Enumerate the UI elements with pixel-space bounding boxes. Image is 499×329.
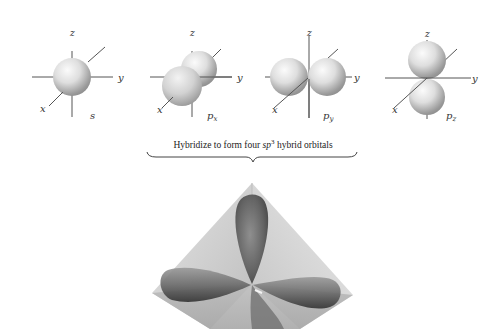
orbital-label-pz: pz bbox=[446, 110, 456, 123]
s-sphere bbox=[53, 58, 91, 96]
x-label: x bbox=[157, 104, 163, 115]
x-axis bbox=[49, 92, 63, 106]
x-axis-back bbox=[212, 49, 221, 58]
x-label: x bbox=[40, 103, 46, 114]
py-left-lobe bbox=[270, 58, 308, 96]
z-label: z bbox=[306, 28, 312, 38]
px-front-lobe bbox=[162, 66, 202, 106]
py-right-lobe bbox=[308, 58, 346, 96]
orbital-hybridization-diagram: z y x s z y x px z y x py bbox=[0, 0, 499, 329]
z-label: z bbox=[69, 28, 75, 38]
y-label: y bbox=[117, 72, 124, 83]
pz-upper-lobe bbox=[408, 41, 446, 79]
y-label: y bbox=[471, 73, 478, 84]
s-orbital: z y x s bbox=[32, 28, 124, 121]
x-axis-back bbox=[327, 49, 338, 59]
hybridize-caption: Hybridize to form four sp3 hybrid orbita… bbox=[147, 138, 357, 162]
z-label: z bbox=[424, 29, 430, 39]
y-label: y bbox=[353, 72, 360, 83]
x-label: x bbox=[392, 104, 398, 115]
orbital-label-py: py bbox=[323, 110, 334, 123]
py-orbital: z y x py bbox=[265, 28, 360, 123]
px-orbital: z y x px bbox=[150, 28, 243, 123]
pz-orbital: z y x pz bbox=[385, 29, 478, 123]
caption-text: Hybridize to form four sp3 hybrid orbita… bbox=[173, 138, 332, 150]
sp3-hybrid-tetrahedron bbox=[152, 183, 353, 329]
x-label: x bbox=[272, 104, 278, 115]
orbital-label-s: s bbox=[90, 110, 95, 121]
x-axis-back bbox=[88, 47, 105, 62]
y-label: y bbox=[236, 72, 243, 83]
curly-brace bbox=[147, 152, 357, 162]
z-label: z bbox=[189, 28, 195, 38]
pz-lower-lobe bbox=[409, 79, 445, 115]
orbital-label-px: px bbox=[207, 110, 217, 123]
